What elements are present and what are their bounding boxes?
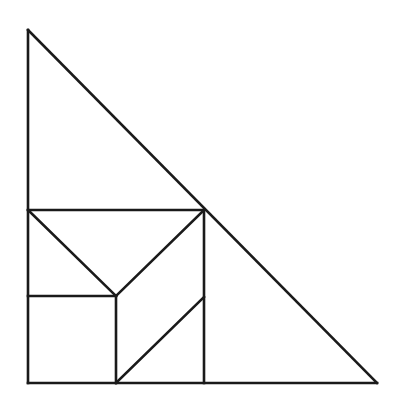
diagram-segments — [28, 30, 377, 383]
outer-hypotenuse — [28, 30, 377, 383]
tangram-diagram — [0, 0, 408, 409]
right-diagonal-to-center — [116, 210, 204, 296]
left-diagonal-to-center — [28, 210, 116, 296]
lower-diagonal — [116, 297, 204, 383]
